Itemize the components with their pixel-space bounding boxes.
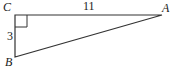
side-label-cb: 3 xyxy=(7,29,13,43)
vertex-label-b: B xyxy=(5,55,13,69)
side-label-ca: 11 xyxy=(83,0,95,13)
triangle-abc xyxy=(15,15,162,57)
triangle-diagram: C A B 11 3 xyxy=(0,0,171,81)
vertex-label-a: A xyxy=(161,1,170,15)
right-angle-marker xyxy=(15,15,27,27)
vertex-label-c: C xyxy=(3,0,12,14)
